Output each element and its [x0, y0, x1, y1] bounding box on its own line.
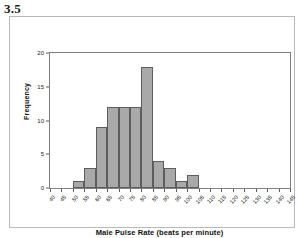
histogram-bar — [107, 107, 118, 188]
x-tick-mark — [244, 189, 245, 192]
plot-area — [50, 53, 290, 188]
x-tick-mark — [187, 189, 188, 192]
y-tick-label: 15 — [37, 84, 44, 90]
exercise-number: 3.5 — [4, 1, 21, 17]
x-tick-mark — [84, 189, 85, 192]
x-tick-mark — [256, 189, 257, 192]
x-tick-mark — [141, 189, 142, 192]
histogram-bar — [153, 161, 164, 188]
x-tick-mark — [130, 189, 131, 192]
x-tick-mark — [279, 189, 280, 192]
y-tick-label: 10 — [37, 118, 44, 124]
x-tick-mark — [221, 189, 222, 192]
x-tick-mark — [50, 189, 51, 192]
histogram-bar — [141, 67, 152, 189]
y-tick-label: 5 — [41, 151, 44, 157]
x-tick-mark — [96, 189, 97, 192]
x-tick-mark — [176, 189, 177, 192]
plot-frame — [49, 52, 291, 189]
y-axis-ticks: 05101520 — [10, 17, 49, 190]
x-axis-ticks: 4045505560657075808590951001051101151201… — [49, 189, 292, 223]
x-tick-mark — [119, 189, 120, 192]
x-tick-mark — [164, 189, 165, 192]
x-tick-mark — [267, 189, 268, 192]
x-tick-mark — [290, 189, 291, 192]
x-axis-title: Male Pulse Rate (beats per minute) — [10, 228, 299, 237]
figure-frame: Frequency 05101520 404550556065707580859… — [9, 16, 295, 228]
x-tick-mark — [61, 189, 62, 192]
histogram-bar — [73, 181, 84, 188]
y-tick-label: 20 — [37, 50, 44, 56]
x-tick-mark — [73, 189, 74, 192]
x-tick-mark — [233, 189, 234, 192]
histogram-bar — [130, 107, 141, 188]
x-tick-mark — [210, 189, 211, 192]
histogram-bar — [84, 168, 95, 188]
x-tick-mark — [199, 189, 200, 192]
y-tick-label: 0 — [41, 185, 44, 191]
histogram-bar — [164, 168, 175, 188]
x-tick-mark — [153, 189, 154, 192]
histogram-bar — [187, 175, 198, 189]
histogram-bar — [96, 127, 107, 188]
x-tick-mark — [107, 189, 108, 192]
histogram-bar — [119, 107, 130, 188]
histogram-bar — [176, 181, 187, 188]
